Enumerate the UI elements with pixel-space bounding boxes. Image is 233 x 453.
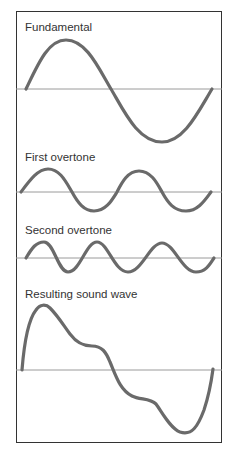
panel-first-overtone: [16, 169, 222, 211]
panel-second-overtone: [16, 242, 222, 272]
panel-resulting-wave: [16, 305, 222, 433]
label-fundamental: Fundamental: [25, 22, 92, 34]
panel-fundamental: [16, 40, 222, 142]
label-second-overtone: Second overtone: [25, 225, 112, 237]
label-resulting-sound-wave: Resulting sound wave: [25, 289, 138, 301]
resulting-sound-wave: [22, 305, 213, 433]
fundamental-wave: [26, 40, 212, 142]
first-overtone-wave: [21, 169, 211, 211]
second-overtone-wave: [26, 242, 214, 272]
label-first-overtone: First overtone: [25, 152, 95, 164]
